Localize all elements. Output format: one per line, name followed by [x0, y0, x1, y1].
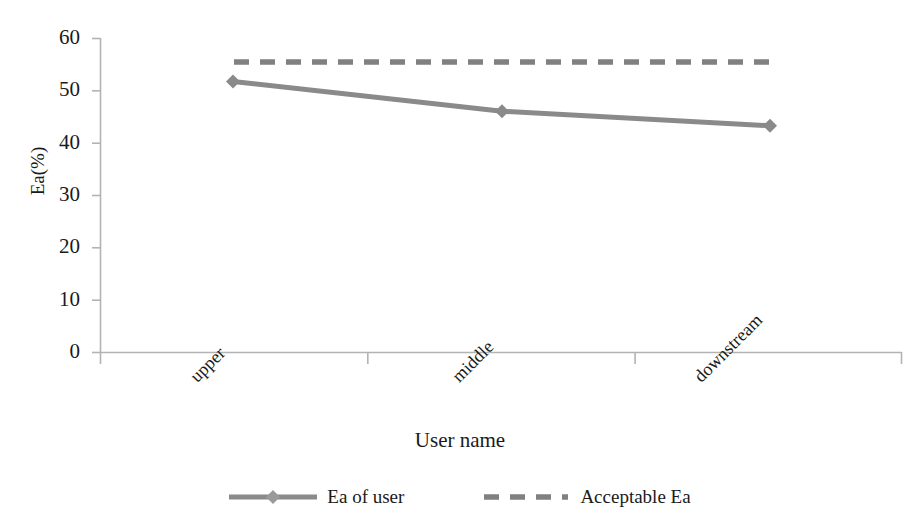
y-axis-ticks: [92, 39, 100, 353]
y-tick-label-20: 20: [28, 234, 80, 259]
chart-container: Ea(%) 60 50 40 30 20 10 0 upper middle d…: [0, 0, 920, 520]
legend-entry-ea-of-user: Ea of user: [229, 486, 404, 508]
y-tick-label-30: 30: [28, 182, 80, 207]
y-tick-label-50: 50: [28, 77, 80, 102]
series-ea-of-user-line: [233, 82, 770, 126]
y-tick-label-10: 10: [28, 287, 80, 312]
solid-line-diamond-marker-icon: [229, 488, 317, 506]
x-axis-title: User name: [0, 428, 920, 453]
y-tick-label-0: 0: [28, 339, 80, 364]
legend-label-acceptable-ea: Acceptable Ea: [580, 486, 690, 508]
legend-entry-acceptable-ea: Acceptable Ea: [482, 486, 690, 508]
dashed-line-icon: [482, 488, 570, 506]
y-tick-label-60: 60: [28, 25, 80, 50]
legend-label-ea-of-user: Ea of user: [327, 486, 404, 508]
y-tick-label-40: 40: [28, 130, 80, 155]
chart-legend: Ea of user Acceptable Ea: [0, 486, 920, 508]
